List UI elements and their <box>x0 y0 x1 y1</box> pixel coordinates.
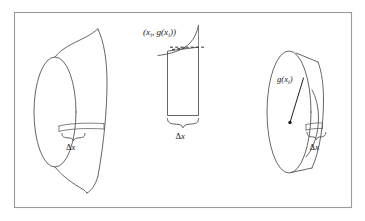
point-mid-text: , g(x <box>152 27 169 37</box>
figure-frame <box>15 13 352 208</box>
delta-x-label-rectangle: Δx <box>176 131 186 141</box>
disk-bottom-edge <box>291 168 312 173</box>
disk-thickness-top-edge <box>306 123 323 125</box>
representative-rectangle-outline <box>168 48 199 116</box>
solid-outer-profile <box>87 29 107 193</box>
point-close-parens: )) <box>169 27 176 37</box>
x-symbol-rectangle: x <box>180 131 185 141</box>
radius-close-paren: ) <box>289 74 293 84</box>
solid-upper-silhouette <box>55 29 98 57</box>
disk-radius-line <box>290 78 304 123</box>
disk-thickness-bottom-edge <box>306 128 323 130</box>
point-coordinate-label: (xi, g(xi)) <box>143 27 176 38</box>
disk-back-upper-rim <box>318 62 324 100</box>
disk-center-dot <box>288 121 291 124</box>
solid-lower-silhouette <box>55 167 87 193</box>
radius-label: g(xi) <box>277 74 293 85</box>
panel-representative-rectangle: (xi, g(xi)) Δx <box>143 26 204 142</box>
radius-g-text: g(x <box>277 74 288 84</box>
delta-x-label-disk: Δx <box>310 142 320 152</box>
x-symbol-disk: x <box>314 142 319 152</box>
rectangle-width-brace <box>168 119 199 128</box>
solid-slice-bottom-edge <box>59 129 104 132</box>
panel-cylindrical-disk: g(xi) Δx <box>267 51 326 173</box>
solid-slice-top-edge <box>59 123 104 126</box>
figure-container: Δx (xi, g(xi)) Δx <box>0 0 365 221</box>
x-symbol-solid: x <box>71 142 76 152</box>
panel-solid-of-revolution: Δx <box>34 29 107 193</box>
figure-canvas: Δx (xi, g(xi)) Δx <box>0 0 365 221</box>
delta-x-label-solid: Δx <box>66 142 76 152</box>
disk-front-ellipse <box>267 51 311 173</box>
